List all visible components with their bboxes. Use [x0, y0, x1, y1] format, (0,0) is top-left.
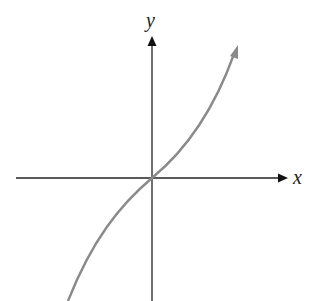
curve-arrowhead-icon [230, 45, 238, 59]
y-axis-label: y [144, 9, 155, 32]
function-graph: y x [0, 0, 314, 301]
y-axis-arrowhead-icon [148, 36, 157, 46]
x-axis-label: x [292, 166, 302, 188]
x-axis-arrowhead-icon [278, 174, 288, 183]
graph-svg: y x [0, 0, 314, 301]
